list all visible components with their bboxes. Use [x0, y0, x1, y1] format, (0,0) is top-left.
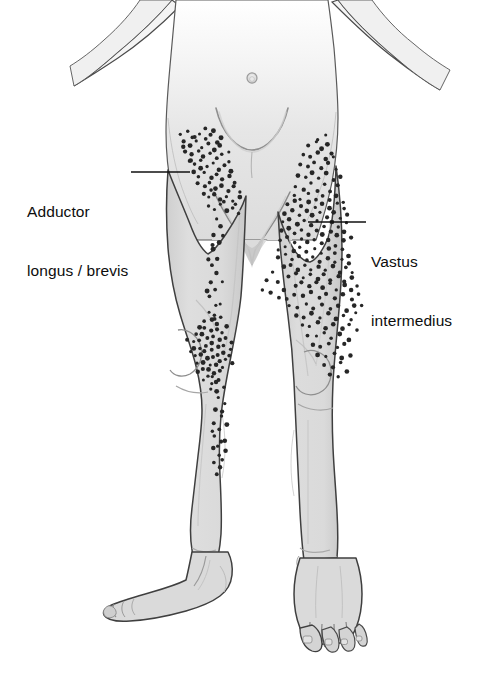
- pain-dot: [206, 141, 210, 145]
- pain-dot: [212, 161, 215, 164]
- pain-dot: [325, 215, 329, 219]
- pain-dot: [342, 342, 346, 346]
- pain-dot: [189, 350, 192, 353]
- pain-dot: [322, 272, 326, 276]
- pain-dot: [197, 325, 202, 330]
- pain-dot: [199, 159, 202, 162]
- pain-dot: [331, 322, 336, 327]
- pain-dot: [214, 271, 218, 275]
- pain-dot: [222, 200, 226, 204]
- pain-dot: [204, 344, 208, 348]
- pain-dot: [193, 162, 197, 166]
- pain-dot: [314, 206, 317, 209]
- pain-dot: [339, 356, 344, 361]
- pain-dot: [310, 170, 315, 175]
- pain-dot: [327, 206, 332, 211]
- pain-dot: [327, 246, 331, 250]
- label-vastus-line2: intermedius: [371, 311, 452, 331]
- pain-dot: [311, 342, 315, 346]
- pain-dot: [292, 293, 296, 297]
- label-adductor-line1: Adductor: [27, 202, 128, 222]
- pain-dot: [320, 285, 325, 290]
- pain-dot: [349, 318, 352, 321]
- pain-dot: [223, 402, 226, 405]
- pain-dot: [346, 254, 351, 259]
- pain-dot: [217, 396, 220, 399]
- pain-dot: [282, 288, 287, 293]
- pain-dot: [345, 213, 349, 217]
- pain-dot: [211, 233, 215, 237]
- pain-dot: [219, 203, 222, 206]
- pain-dot: [350, 298, 354, 302]
- pain-dot: [293, 194, 296, 197]
- pain-dot: [331, 365, 335, 369]
- pain-dot: [333, 251, 337, 255]
- pain-dot: [212, 421, 216, 425]
- pain-dot: [233, 181, 237, 185]
- pain-dot: [316, 150, 321, 155]
- pain-dot: [227, 150, 230, 153]
- pain-dot: [294, 271, 298, 275]
- pain-dot: [215, 257, 219, 261]
- pain-dot: [322, 225, 326, 229]
- pain-dot: [293, 241, 297, 245]
- pain-dot: [191, 170, 196, 175]
- pain-dot: [205, 356, 210, 361]
- pain-dot: [326, 311, 331, 316]
- pain-dot: [332, 178, 336, 182]
- pain-dot: [290, 208, 294, 212]
- pain-dot: [213, 314, 217, 318]
- pain-dot: [198, 166, 203, 171]
- pain-dot: [211, 375, 214, 378]
- pain-dot: [329, 336, 333, 340]
- pain-dot: [215, 217, 218, 220]
- pain-dot: [226, 189, 230, 193]
- pain-dot: [294, 313, 299, 318]
- pain-dot: [308, 155, 312, 159]
- pain-dot: [334, 244, 338, 248]
- pain-dot: [315, 352, 320, 357]
- pain-dot: [219, 315, 223, 319]
- pain-dot: [316, 320, 321, 325]
- pain-dot: [211, 430, 214, 433]
- pain-dot: [223, 438, 228, 443]
- label-vastus-intermedius: Vastus intermedius: [371, 213, 452, 369]
- pain-dot: [299, 198, 302, 201]
- pain-dot: [221, 366, 224, 369]
- pain-dot: [337, 375, 340, 378]
- pain-dot: [215, 172, 219, 176]
- pain-dot: [221, 350, 226, 355]
- pain-dot: [351, 271, 354, 274]
- pain-dot: [219, 440, 223, 444]
- pain-dot: [336, 304, 340, 308]
- pain-dot: [294, 284, 298, 288]
- pain-dot: [203, 127, 207, 131]
- pain-dot: [205, 165, 208, 168]
- pain-dot: [342, 207, 346, 211]
- label-vastus-line1: Vastus: [371, 252, 452, 272]
- pain-dot: [220, 331, 223, 334]
- pain-dot: [194, 354, 197, 357]
- pain-dot: [209, 188, 213, 192]
- pain-dot: [302, 219, 305, 222]
- pain-dot: [213, 186, 218, 191]
- pain-dot: [224, 208, 229, 213]
- pain-dot: [276, 280, 280, 284]
- pain-dot: [194, 332, 198, 336]
- pain-dot: [192, 340, 195, 343]
- torso: [166, 0, 338, 240]
- pain-dot: [317, 177, 320, 180]
- pain-dot: [218, 224, 223, 229]
- pain-dot: [305, 302, 308, 305]
- pain-dot: [320, 252, 323, 255]
- pain-dot: [312, 161, 316, 165]
- pain-dot: [324, 268, 327, 271]
- pain-dot: [214, 380, 218, 384]
- pain-dot: [333, 351, 337, 355]
- pain-dot: [217, 427, 221, 431]
- pain-dot: [215, 322, 219, 326]
- pain-dot: [221, 280, 224, 283]
- pain-dot: [219, 135, 224, 140]
- pain-dot: [284, 253, 287, 256]
- pain-dot: [191, 346, 196, 351]
